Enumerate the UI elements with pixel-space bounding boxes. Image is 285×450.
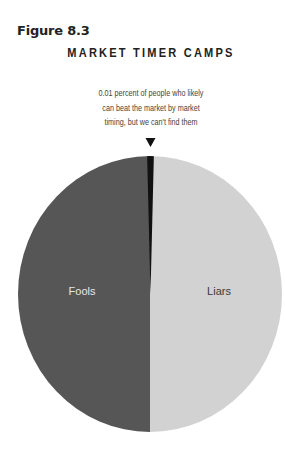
- pointer-arrow-icon: [146, 138, 156, 147]
- label-liars: Liars: [207, 285, 231, 297]
- pie-chart: Fools Liars: [0, 0, 285, 450]
- label-fools: Fools: [69, 285, 96, 297]
